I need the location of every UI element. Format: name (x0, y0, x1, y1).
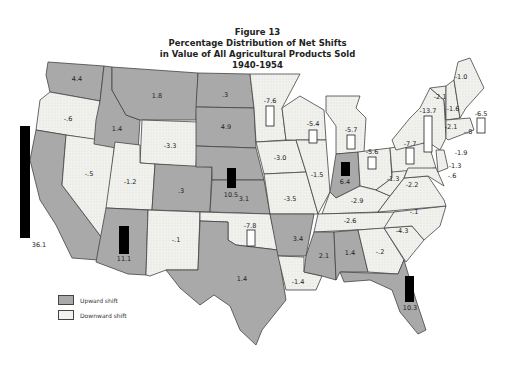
legend-upward-label: Upward shift (80, 297, 118, 304)
svg-text:-7.7: -7.7 (404, 140, 417, 148)
legend-downward-swatch (58, 310, 74, 320)
bar-michigan (347, 135, 355, 149)
svg-text:-.2: -.2 (376, 248, 385, 256)
svg-text:1.8: 1.8 (152, 92, 162, 100)
svg-text:-.8: -.8 (464, 128, 473, 136)
svg-text:11.1: 11.1 (117, 255, 131, 263)
svg-text:.3: .3 (178, 187, 184, 195)
svg-text:-3.0: -3.0 (274, 154, 287, 162)
svg-text:-7.8: -7.8 (244, 222, 257, 230)
svg-text:-6.5: -6.5 (475, 110, 488, 118)
bar-wisconsin (309, 130, 317, 143)
bar-arizona (119, 226, 129, 254)
svg-text:1.4: 1.4 (112, 125, 122, 133)
bar-florida (405, 276, 414, 302)
state-michigan (326, 96, 366, 154)
bar-minnesota (266, 106, 274, 126)
svg-text:-5.6: -5.6 (366, 148, 379, 156)
bar-new-york (424, 116, 432, 152)
svg-text:1.4: 1.4 (345, 249, 355, 257)
svg-text:-.6: -.6 (448, 172, 457, 180)
bar-california (20, 126, 30, 238)
svg-text:-3.3: -3.3 (164, 142, 177, 150)
svg-text:-.6: -.6 (64, 115, 73, 123)
state-new-jersey (436, 150, 448, 172)
svg-text:10.5: 10.5 (224, 191, 238, 199)
bar-nebraska (227, 168, 236, 188)
svg-text:-13.7: -13.7 (420, 107, 437, 115)
svg-text:-1.0: -1.0 (455, 73, 468, 81)
svg-text:-4.3: -4.3 (396, 227, 409, 235)
svg-text:1.4: 1.4 (237, 275, 247, 283)
svg-text:-2.2: -2.2 (406, 181, 419, 189)
svg-text:-2.9: -2.9 (351, 197, 364, 205)
svg-text:-2.1: -2.1 (445, 123, 458, 131)
svg-text:36.1: 36.1 (32, 241, 46, 249)
svg-text:-1.3: -1.3 (449, 162, 462, 170)
svg-text:3.1: 3.1 (239, 195, 249, 203)
svg-text:-.1: -.1 (410, 208, 419, 216)
svg-text:-.1: -.1 (172, 236, 181, 244)
svg-text:-3.5: -3.5 (284, 195, 297, 203)
svg-text:-2.1: -2.1 (434, 93, 447, 101)
svg-text:2.1: 2.1 (319, 252, 329, 260)
legend-downward: Downward shift (58, 310, 127, 320)
svg-text:-2.6: -2.6 (344, 217, 357, 225)
svg-text:6.4: 6.4 (340, 178, 350, 186)
legend-downward-label: Downward shift (80, 312, 127, 319)
svg-text:10.3: 10.3 (403, 304, 417, 312)
svg-text:-.5: -.5 (85, 170, 94, 178)
bar-massachusetts (477, 118, 485, 133)
svg-text:-1.5: -1.5 (311, 171, 324, 179)
svg-text:3.4: 3.4 (293, 235, 303, 243)
svg-text:.3: .3 (222, 91, 228, 99)
legend-upward: Upward shift (58, 295, 118, 305)
bar-ohio (368, 157, 376, 169)
svg-text:-1.9: -1.9 (455, 149, 468, 157)
svg-text:-1.2: -1.2 (124, 178, 137, 186)
bar-oklahoma (247, 230, 255, 246)
svg-text:4.4: 4.4 (72, 75, 82, 83)
svg-text:-5.7: -5.7 (345, 126, 358, 134)
svg-text:-5.4: -5.4 (307, 120, 320, 128)
svg-text:-1.3: -1.3 (387, 175, 400, 183)
svg-text:4.9: 4.9 (221, 123, 231, 131)
svg-text:-7.6: -7.6 (264, 97, 277, 105)
bar-indiana (341, 162, 350, 176)
bar-pennsylvania (406, 148, 414, 164)
svg-text:-1.4: -1.4 (292, 278, 305, 286)
legend-upward-swatch (58, 295, 74, 305)
state-wisconsin (282, 96, 326, 140)
svg-text:-1.6: -1.6 (447, 105, 460, 113)
